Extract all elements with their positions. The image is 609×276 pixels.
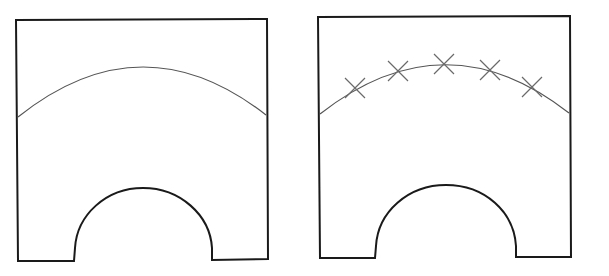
curve-line bbox=[320, 65, 569, 114]
part-outline bbox=[318, 16, 571, 258]
left-panel bbox=[16, 19, 268, 261]
x-marker-icon bbox=[522, 77, 542, 97]
x-marker-icon bbox=[345, 78, 365, 98]
x-marker-icon bbox=[434, 54, 454, 74]
diagram-canvas bbox=[0, 0, 609, 276]
right-panel bbox=[318, 16, 571, 258]
x-markers bbox=[345, 54, 542, 98]
part-outline bbox=[16, 19, 268, 261]
x-marker-icon bbox=[388, 61, 408, 81]
curve-line bbox=[18, 67, 266, 117]
x-marker-icon bbox=[480, 60, 500, 80]
